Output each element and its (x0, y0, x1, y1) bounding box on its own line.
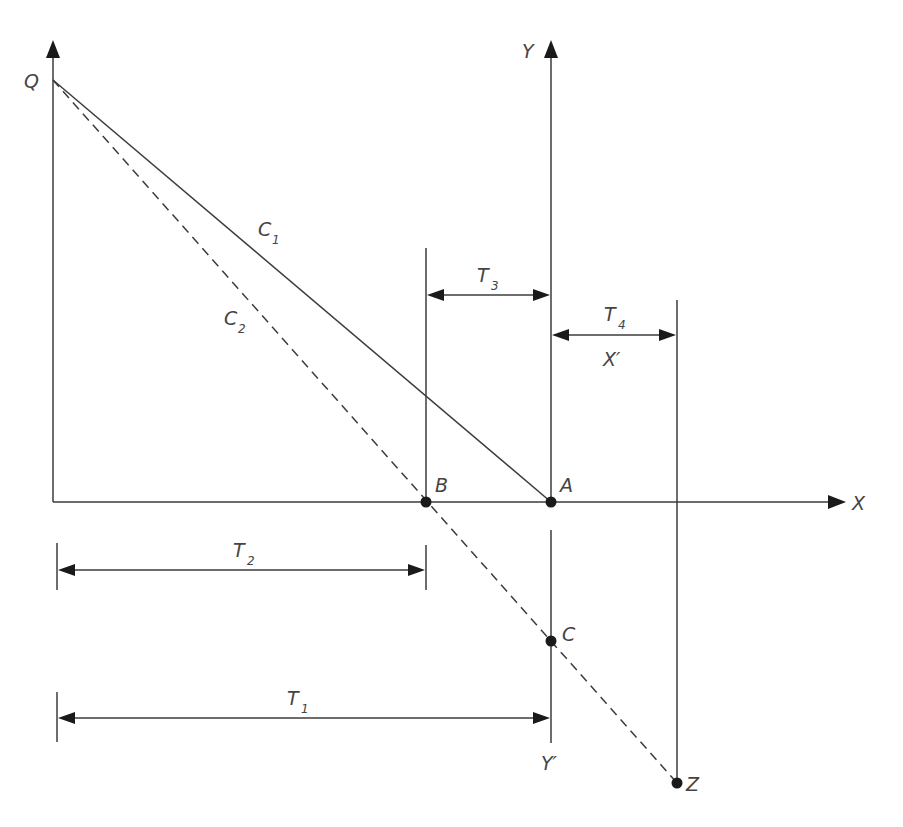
x-prime-label: X′ (602, 348, 621, 370)
line-c2 (53, 80, 677, 783)
t3-name: T (477, 264, 490, 286)
label-b: B (435, 474, 448, 496)
c1-sub: 1 (272, 233, 280, 247)
c2-name: C (224, 307, 238, 329)
t3-sub: 3 (491, 279, 499, 293)
label-c2: C 2 (224, 307, 246, 336)
construction-diagram: X Y Y′ Q B A C Z C 1 (0, 0, 903, 827)
arrow-left-icon (427, 289, 444, 301)
dimension-t2: T 2 (57, 539, 425, 590)
dimension-t3: T 3 (427, 264, 550, 301)
y-axis (544, 40, 558, 502)
label-a: A (558, 474, 573, 496)
t4-sub: 4 (618, 318, 626, 332)
point-a (546, 497, 557, 508)
y-axis-label: Y (522, 40, 535, 62)
label-z: Z (685, 773, 700, 795)
label-q: Q (24, 70, 39, 92)
label-c1: C 1 (258, 218, 280, 247)
x-axis-label: X (851, 492, 866, 514)
t2-name: T (233, 539, 246, 561)
arrow-up-icon (544, 40, 558, 58)
point-z (672, 778, 683, 789)
dimension-t1: T 1 (57, 687, 550, 742)
dimension-t4: T 4 (552, 303, 676, 341)
line-c1 (53, 80, 551, 502)
left-vertical-axis (46, 40, 60, 502)
y-prime-label: Y′ (541, 752, 558, 774)
t4-name: T (604, 303, 617, 325)
point-b (421, 497, 432, 508)
t1-name: T (287, 687, 300, 709)
label-c: C (562, 623, 576, 645)
c1-name: C (258, 218, 272, 240)
x-axis (53, 495, 846, 509)
arrow-up-icon (46, 40, 60, 58)
c2-sub: 2 (238, 322, 246, 336)
arrow-right-icon (533, 289, 550, 301)
t2-sub: 2 (247, 554, 255, 568)
arrow-right-icon (408, 564, 425, 576)
arrow-right-icon (828, 495, 846, 509)
diagram-canvas: X Y Y′ Q B A C Z C 1 (0, 0, 903, 827)
arrow-left-icon (58, 712, 75, 724)
point-c (546, 636, 557, 647)
arrow-right-icon (533, 712, 550, 724)
arrow-right-icon (659, 329, 676, 341)
t1-sub: 1 (301, 702, 309, 716)
arrow-left-icon (58, 564, 75, 576)
arrow-left-icon (552, 329, 569, 341)
